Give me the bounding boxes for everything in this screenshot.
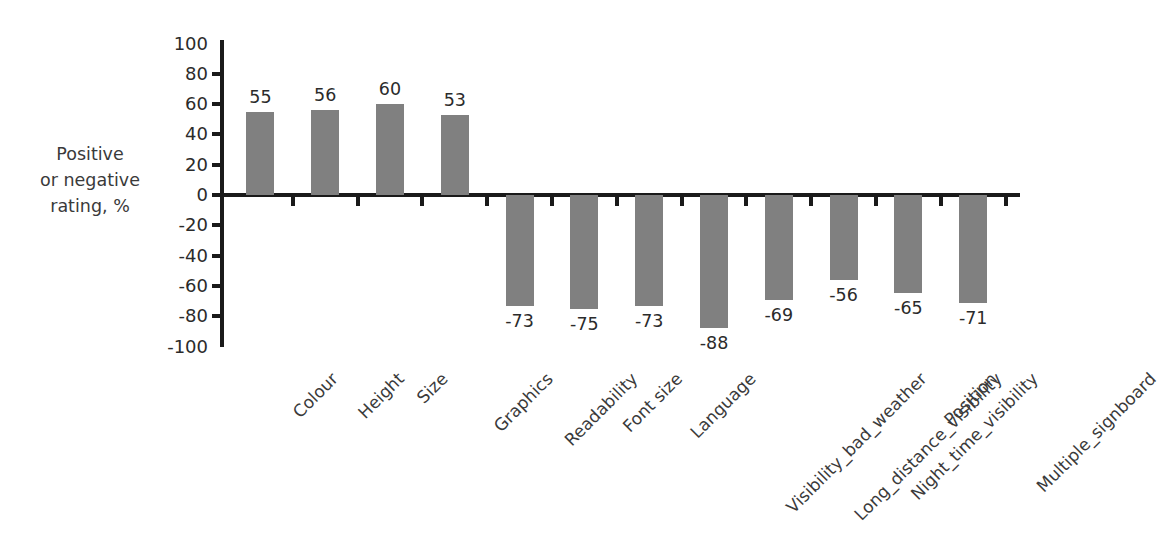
x-category-label: Visibility_bad_weather [784, 370, 930, 516]
x-tick-mark [939, 197, 943, 206]
x-category-label: Colour [291, 370, 342, 421]
bar [635, 195, 663, 306]
x-category-label: Language [688, 370, 759, 441]
bar-value-label: -69 [749, 306, 809, 324]
x-tick-mark [680, 197, 684, 206]
x-tick-mark [420, 197, 424, 206]
x-category-label: Multiple_signboard [1034, 370, 1159, 495]
y-tick-mark [212, 163, 221, 167]
bar-value-label: -56 [814, 286, 874, 304]
y-tick-label: -80 [146, 307, 208, 325]
x-category-label: Readability [561, 370, 640, 449]
bar [894, 195, 922, 293]
x-category-label: Height [356, 370, 408, 422]
y-tick-mark [212, 72, 221, 76]
y-axis-title-line-3: rating, % [18, 193, 162, 219]
y-tick-mark [212, 193, 221, 197]
y-axis-title-line-2: or negative [18, 167, 162, 193]
bar-value-label: 53 [425, 91, 485, 109]
bar [311, 110, 339, 195]
y-tick-label: -60 [146, 277, 208, 295]
y-tick-mark [212, 284, 221, 288]
y-tick-label: 20 [146, 156, 208, 174]
y-axis-title: Positive or negative rating, % [18, 141, 162, 219]
y-tick-label: 60 [146, 95, 208, 113]
bar-value-label: -71 [943, 309, 1003, 327]
y-tick-label: 80 [146, 65, 208, 83]
x-tick-mark [485, 197, 489, 206]
y-tick-label: -20 [146, 216, 208, 234]
y-tick-label: -40 [146, 247, 208, 265]
bar [246, 112, 274, 195]
bar-value-label: -65 [878, 299, 938, 317]
bar-value-label: -88 [684, 334, 744, 352]
x-tick-mark [874, 197, 878, 206]
bar [959, 195, 987, 303]
bar [700, 195, 728, 328]
x-category-label: Graphics [491, 370, 556, 435]
x-tick-mark [1004, 197, 1008, 206]
bar [376, 104, 404, 195]
bar [765, 195, 793, 300]
y-tick-mark [212, 223, 221, 227]
bar-value-label: 55 [230, 88, 290, 106]
x-tick-mark [550, 197, 554, 206]
x-tick-mark [744, 197, 748, 206]
y-tick-label: 40 [146, 125, 208, 143]
y-tick-mark [212, 254, 221, 258]
y-tick-label: 0 [146, 186, 208, 204]
y-tick-mark [212, 314, 221, 318]
y-tick-mark [212, 132, 221, 136]
x-tick-mark [615, 197, 619, 206]
y-tick-label: 100 [146, 35, 208, 53]
x-category-label: Size [414, 370, 451, 407]
x-tick-mark [291, 197, 295, 206]
bar [570, 195, 598, 309]
y-tick-label: -100 [146, 338, 208, 356]
bar-value-label: 56 [295, 86, 355, 104]
bar-value-label: -75 [554, 315, 614, 333]
bar-value-label: 60 [360, 80, 420, 98]
bar [441, 115, 469, 195]
bar [830, 195, 858, 280]
y-axis-title-line-1: Positive [18, 141, 162, 167]
y-tick-mark [212, 102, 221, 106]
bar [506, 195, 534, 306]
x-tick-mark [356, 197, 360, 206]
x-tick-mark [809, 197, 813, 206]
bar-value-label: -73 [490, 312, 550, 330]
bar-value-label: -73 [619, 312, 679, 330]
